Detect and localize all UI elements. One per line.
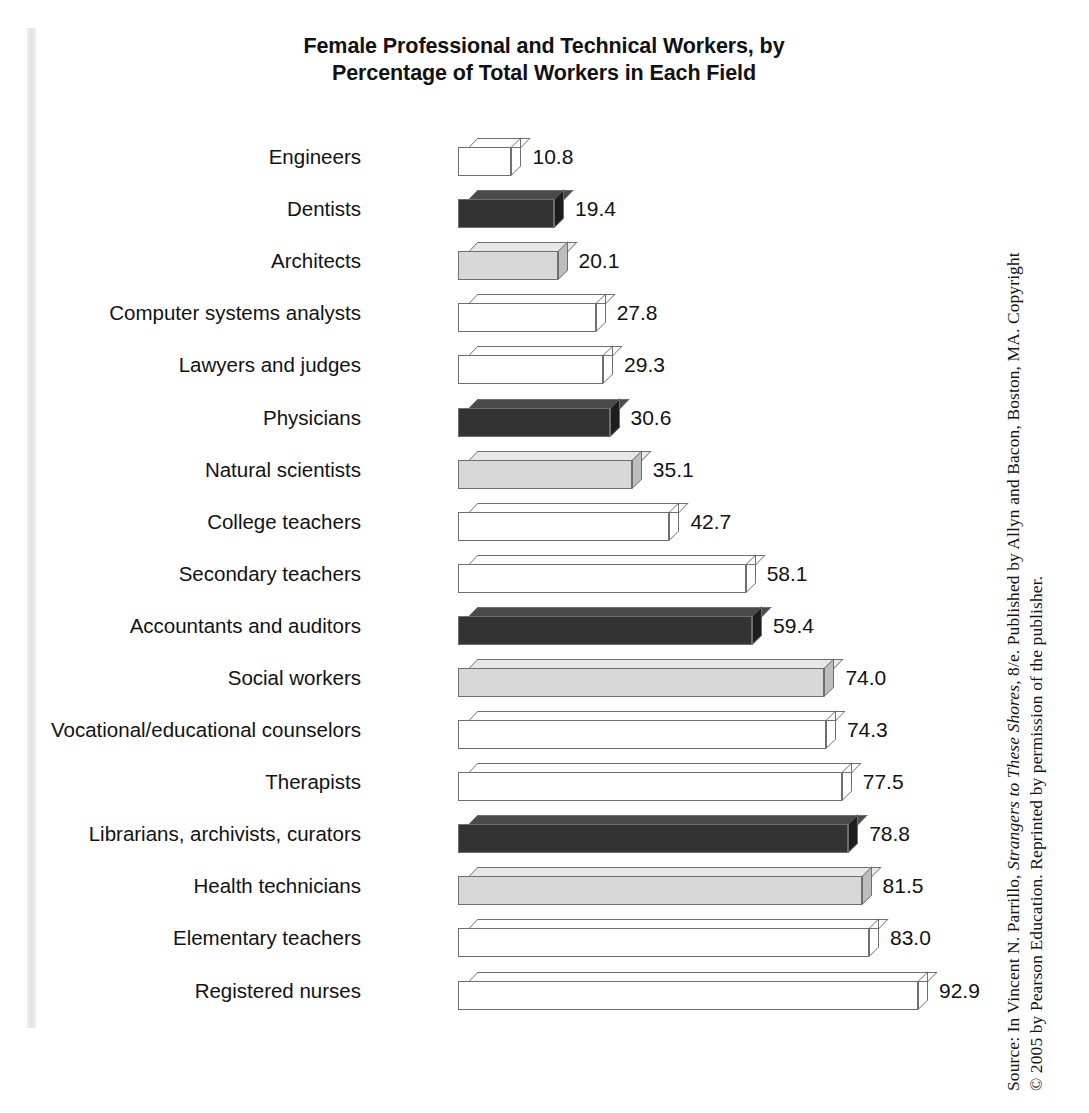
bar-value-label: 77.5 (863, 770, 904, 794)
bar-category-label: Accountants and auditors (130, 614, 361, 638)
bar-3d (458, 659, 834, 697)
chart-row: Social workers74.0 (0, 652, 1000, 704)
bar-3d (458, 919, 879, 957)
bar-front-face (458, 668, 824, 697)
bar-value-label: 74.3 (847, 718, 888, 742)
chart-row: Secondary teachers58.1 (0, 548, 1000, 600)
bar-3d (458, 972, 928, 1010)
chart-row: Computer systems analysts27.8 (0, 287, 1000, 339)
bar-category-label: Librarians, archivists, curators (89, 822, 361, 846)
bar-value-label: 19.4 (575, 197, 616, 221)
bar-front-face (458, 303, 596, 332)
bar-front-face (458, 460, 632, 489)
chart-title-line-1: Female Professional and Technical Worker… (214, 33, 874, 60)
bar-front-face (458, 408, 610, 437)
bar-value-label: 27.8 (617, 301, 658, 325)
bar-category-label: Natural scientists (205, 458, 361, 482)
chart-row: Engineers10.8 (0, 131, 1000, 183)
bar-value-label: 78.8 (869, 822, 910, 846)
bar-value-label: 92.9 (939, 979, 980, 1003)
chart-row: Natural scientists35.1 (0, 444, 1000, 496)
chart-row: Dentists19.4 (0, 183, 1000, 235)
bar-front-face (458, 512, 669, 541)
bar-3d (458, 399, 620, 437)
chart-row: College teachers42.7 (0, 496, 1000, 548)
bar-value-label: 29.3 (624, 353, 665, 377)
bar-3d (458, 190, 564, 228)
bar-side-face (603, 346, 613, 385)
bar-3d (458, 138, 521, 176)
bar-front-face (458, 928, 869, 957)
bar-value-label: 20.1 (579, 249, 620, 273)
bar-category-label: Architects (271, 249, 361, 273)
bar-3d (458, 867, 872, 905)
bar-value-label: 10.8 (532, 145, 573, 169)
bar-3d (458, 294, 606, 332)
source-book-title: Strangers to These Shores (1003, 685, 1023, 870)
bar-category-label: College teachers (207, 510, 361, 534)
bar-front-face (458, 251, 558, 280)
source-credit-line-2: © 2005 by Pearson Education. Reprinted b… (1026, 576, 1047, 1091)
bar-front-face (458, 199, 554, 228)
chart-row: Registered nurses92.9 (0, 965, 1000, 1017)
bar-chart-plot-area: Engineers10.8Dentists19.4Architects20.1C… (0, 131, 1000, 1017)
bar-category-label: Engineers (269, 145, 361, 169)
bar-3d (458, 711, 836, 749)
bar-value-label: 35.1 (653, 458, 694, 482)
bar-value-label: 59.4 (773, 614, 814, 638)
bar-value-label: 42.7 (690, 510, 731, 534)
bar-3d (458, 451, 642, 489)
chart-row: Lawyers and judges29.3 (0, 339, 1000, 391)
bar-category-label: Lawyers and judges (179, 353, 361, 377)
chart-row: Librarians, archivists, curators78.8 (0, 808, 1000, 860)
bar-3d (458, 503, 679, 541)
bar-front-face (458, 355, 603, 384)
bar-front-face (458, 981, 918, 1010)
bar-front-face (458, 147, 511, 176)
bar-front-face (458, 564, 746, 593)
chart-row: Vocational/educational counselors74.3 (0, 704, 1000, 756)
bar-category-label: Therapists (265, 770, 361, 794)
source-credit: Source: In Vincent N. Parrillo, Stranger… (985, 0, 1055, 1113)
bar-category-label: Social workers (228, 666, 361, 690)
bar-front-face (458, 824, 848, 853)
bar-value-label: 81.5 (883, 874, 924, 898)
chart-row: Health technicians81.5 (0, 860, 1000, 912)
bar-category-label: Registered nurses (195, 979, 361, 1003)
bar-side-face (511, 137, 521, 176)
bar-value-label: 30.6 (631, 406, 672, 430)
bar-value-label: 74.0 (845, 666, 886, 690)
bar-category-label: Secondary teachers (179, 562, 361, 586)
chart-row: Elementary teachers83.0 (0, 912, 1000, 964)
bar-front-face (458, 616, 752, 645)
bar-category-label: Computer systems analysts (109, 301, 361, 325)
bar-3d (458, 346, 613, 384)
bar-front-face (458, 720, 826, 749)
chart-row: Therapists77.5 (0, 756, 1000, 808)
chart-title-line-2: Percentage of Total Workers in Each Fiel… (214, 60, 874, 87)
source-post-text: , 8/e. Published by Allyn and Bacon, Bos… (1003, 252, 1023, 685)
bar-value-label: 58.1 (767, 562, 808, 586)
source-pre-text: Source: In Vincent N. Parrillo, (1003, 870, 1023, 1091)
bar-front-face (458, 772, 842, 801)
chart-title: Female Professional and Technical Worker… (214, 33, 874, 87)
chart-row: Architects20.1 (0, 235, 1000, 287)
chart-row: Accountants and auditors59.4 (0, 600, 1000, 652)
bar-3d (458, 815, 858, 853)
bar-category-label: Health technicians (193, 874, 361, 898)
bar-category-label: Vocational/educational counselors (51, 718, 361, 742)
bar-category-label: Elementary teachers (173, 926, 361, 950)
bar-3d (458, 242, 568, 280)
bar-category-label: Physicians (263, 406, 361, 430)
chart-row: Physicians30.6 (0, 391, 1000, 443)
bar-value-label: 83.0 (890, 926, 931, 950)
bar-front-face (458, 876, 862, 905)
bar-3d (458, 555, 756, 593)
source-credit-line-1: Source: In Vincent N. Parrillo, Stranger… (1003, 252, 1024, 1091)
bar-3d (458, 763, 852, 801)
figure-root: Female Professional and Technical Worker… (0, 0, 1089, 1113)
bar-category-label: Dentists (287, 197, 361, 221)
bar-3d (458, 607, 762, 645)
